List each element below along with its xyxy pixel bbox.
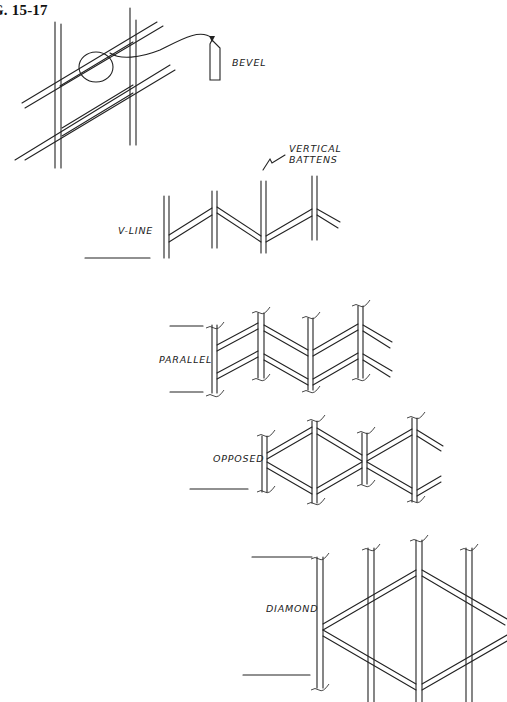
diamond-pattern-drawing — [243, 535, 507, 702]
bevel-label: BEVEL — [232, 57, 266, 68]
bevel-detail-drawing — [15, 8, 220, 168]
diamond-label: DIAMOND — [266, 603, 318, 614]
parallel-label: PARALLEL — [159, 354, 212, 365]
v-line-pattern-drawing — [85, 155, 340, 258]
parallel-pattern-drawing — [170, 300, 392, 397]
lattice-diagram — [0, 0, 507, 702]
opposed-label: OPPOSED — [213, 453, 264, 464]
v-line-label: V-LINE — [118, 225, 153, 236]
vertical-battens-label-line1: VERTICAL — [289, 143, 342, 154]
vertical-battens-label-line2: BATTENS — [289, 154, 338, 165]
